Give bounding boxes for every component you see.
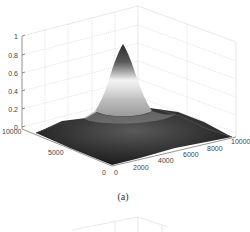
y-tick-label: 0: [102, 169, 106, 176]
x-tick-label: 4000: [158, 157, 174, 164]
figure-caption: (a): [117, 191, 128, 203]
surface-plot-b-partial: [72, 217, 168, 232]
x-tick-label: 2000: [133, 164, 149, 171]
z-axis-labels: 1 0.8 0.6 0.4 0.2 0: [8, 33, 18, 131]
z-tick-label: 0.2: [8, 106, 18, 113]
z-tick-label: 0.6: [8, 70, 18, 77]
z-tick-label: 1: [14, 33, 18, 40]
y-tick-label: 10000: [2, 128, 22, 135]
z-tick-label: 0.8: [8, 52, 18, 59]
z-tick-label: 0.4: [8, 88, 18, 95]
x-tick-label: 6000: [183, 151, 199, 158]
y-tick-label: 5000: [48, 149, 64, 156]
surface-plot-a: 1 0.8 0.6 0.4 0.2 0 10000 5000 0 0 2000 …: [0, 0, 250, 232]
x-tick-label: 10000: [231, 138, 250, 145]
x-tick-label: 0: [114, 169, 118, 176]
x-tick-label: 8000: [207, 145, 223, 152]
